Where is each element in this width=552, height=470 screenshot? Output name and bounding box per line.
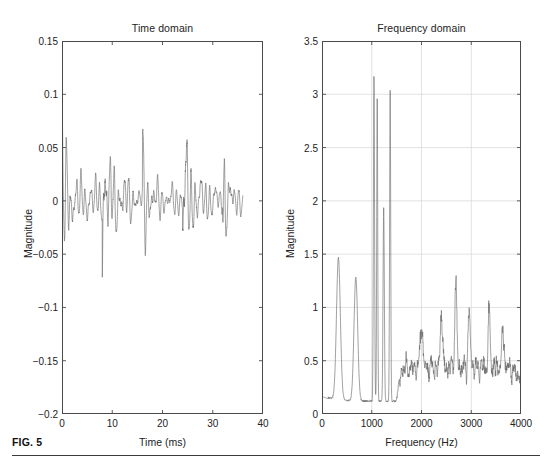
ytick-label: 0.05: [20, 142, 58, 153]
ytick-label: 2.5: [280, 142, 318, 153]
ytick-label: 3: [280, 89, 318, 100]
figure-5: Time domain Magnitude Time (ms) −0.2−0.1…: [0, 0, 552, 470]
xtick-label: 3000: [460, 418, 482, 429]
xtick-label: 30: [207, 418, 218, 429]
ytick-label: −0.15: [20, 355, 58, 366]
xtick-label: 0: [319, 418, 325, 429]
figure-caption-label: FIG. 5: [12, 436, 42, 448]
xtick-label: 20: [157, 418, 168, 429]
frequency-domain-title: Frequency domain: [322, 22, 521, 34]
xtick-label: 1000: [361, 418, 383, 429]
ytick-label: 0: [20, 195, 58, 206]
ytick-label: 0.1: [20, 89, 58, 100]
xtick-label: 2000: [410, 418, 432, 429]
frequency-domain-plot: [322, 41, 521, 414]
time-domain-title: Time domain: [62, 22, 263, 34]
ytick-label: 3.5: [280, 36, 318, 47]
time-domain-plot: [62, 41, 263, 414]
time-domain-panel: Time domain: [62, 41, 263, 414]
ytick-label: 1.5: [280, 249, 318, 260]
ytick-label: 0.15: [20, 36, 58, 47]
ytick-label: 2: [280, 195, 318, 206]
ytick-label: −0.05: [20, 249, 58, 260]
ytick-label: −0.1: [20, 302, 58, 313]
ytick-label: 0: [280, 409, 318, 420]
xtick-label: 10: [107, 418, 118, 429]
frequency-domain-panel: Frequency domain: [322, 41, 521, 414]
xtick-label: 0: [59, 418, 65, 429]
ytick-label: 1: [280, 302, 318, 313]
caption-divider: [12, 455, 540, 456]
xtick-label: 4000: [510, 418, 532, 429]
xtick-label: 40: [257, 418, 268, 429]
ytick-label: 0.5: [280, 355, 318, 366]
ytick-label: −0.2: [20, 409, 58, 420]
figure-caption: FIG. 5: [12, 432, 540, 456]
